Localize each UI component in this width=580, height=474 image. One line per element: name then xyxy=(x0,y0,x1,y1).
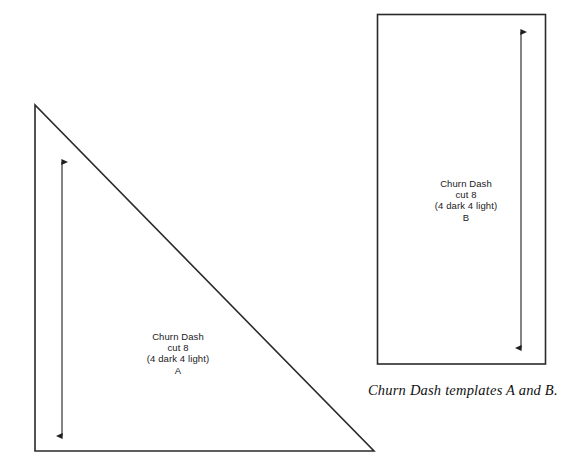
template-b-label-line-1: Churn Dash xyxy=(406,178,526,189)
template-b-label: Churn Dash cut 8 (4 dark 4 light) B xyxy=(406,178,526,223)
template-a-label-line-2: cut 8 xyxy=(118,342,238,353)
template-a-label-line-1: Churn Dash xyxy=(118,331,238,342)
template-b-label-line-2: cut 8 xyxy=(406,189,526,200)
shapes-layer xyxy=(0,0,580,474)
template-a-label: Churn Dash cut 8 (4 dark 4 light) A xyxy=(118,331,238,376)
template-a-triangle-outline xyxy=(35,105,374,451)
template-a-label-line-3: (4 dark 4 light) xyxy=(118,353,238,364)
template-b-label-line-3: (4 dark 4 light) xyxy=(406,200,526,211)
quilt-template-figure: Churn Dash cut 8 (4 dark 4 light) A Chur… xyxy=(0,0,580,474)
template-a-label-line-4: A xyxy=(118,365,238,376)
template-b-label-line-4: B xyxy=(406,212,526,223)
figure-caption: Churn Dash templates A and B. xyxy=(368,382,558,399)
